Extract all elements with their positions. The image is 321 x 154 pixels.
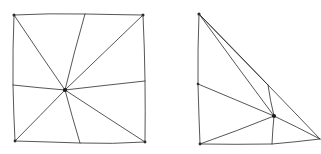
square-outline: [13, 14, 145, 144]
panel-triangle-fan-triangulation: [197, 12, 320, 145]
square-edge-left: [13, 15, 15, 141]
square-spoke-to-top-right-corner: [65, 15, 143, 90]
square-vertex-dot-bottom-right: [144, 141, 147, 144]
triangle-spoke-to-bottom-edge-point: [272, 116, 274, 144]
square-spoke-to-bottom-left-corner: [15, 90, 65, 141]
square-edge-right: [143, 15, 145, 142]
triangle-vertex-dot-bottom-left: [199, 143, 202, 146]
square-spoke-to-left-edge-point: [13, 85, 65, 90]
triangle-edge-bottom: [200, 139, 320, 144]
square-spoke-to-top-left-corner: [14, 15, 65, 90]
square-edge-top: [14, 14, 143, 15]
triangle-vertex-dot-left-edge-point: [197, 83, 200, 86]
square-vertex-dot-top-left: [13, 14, 16, 17]
triangle-edge-left: [198, 14, 200, 144]
panel-square-fan-triangulation: [13, 14, 147, 144]
square-spoke-to-right-edge-point: [65, 81, 145, 90]
triangle-outline: [198, 14, 320, 144]
triangle-interior-hub-dot: [272, 114, 276, 118]
square-vertex-dot-bottom-left: [14, 140, 17, 143]
triangle-spoke-to-apex: [199, 14, 274, 116]
square-spoke-to-top-edge-point: [65, 14, 85, 90]
triangle-spokes: [198, 14, 320, 144]
triangle-chord-apex-to-hypotenuse-point: [199, 14, 268, 85]
triangle-spoke-to-bottom-left-corner: [200, 116, 274, 144]
triangle-spoke-to-bottom-right-corner: [274, 116, 320, 139]
triangle-vertex-dot-apex: [197, 12, 200, 15]
square-vertex-dot-top-right: [142, 14, 145, 17]
square-spokes: [13, 14, 145, 143]
square-center-hub-dot: [63, 88, 67, 92]
figure-canvas: Hand-drawn fan triangulation diagrams: [0, 0, 321, 154]
